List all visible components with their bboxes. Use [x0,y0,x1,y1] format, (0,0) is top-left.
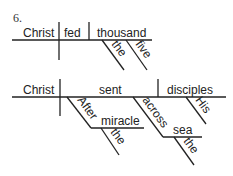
modifier-word: five [133,38,155,62]
problem-number: 6. [13,11,22,25]
preposition-word: After [75,94,101,123]
prep-object-word: miracle [101,114,140,128]
object-word: thousand [97,26,146,40]
verb-word: sent [99,83,122,97]
object-word: disciples [167,83,213,97]
subject-word: Christ [23,83,55,97]
diagram-2: Christ sent disciples His After miracle … [12,79,226,165]
verb-word: fed [64,26,81,40]
modifier-word: the [181,135,202,157]
sentence-diagram: 6. Christ fed thousand the five Christ s… [0,0,233,176]
subject-word: Christ [23,26,55,40]
modifier-word: the [108,126,129,148]
diagram-1: Christ fed thousand the five [12,22,155,70]
